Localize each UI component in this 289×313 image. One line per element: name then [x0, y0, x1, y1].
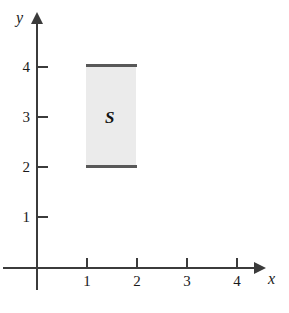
- y-tick-mark: [37, 216, 48, 218]
- x-tick-mark: [86, 258, 88, 269]
- y-tick-label: 2: [16, 160, 30, 175]
- math-figure: x y 1 2 3 4 1 2 3 4 S: [0, 0, 289, 313]
- x-tick-mark: [136, 258, 138, 269]
- y-axis-arrow-icon: [31, 12, 43, 24]
- region-s-top-edge: [86, 64, 137, 67]
- y-tick-mark: [37, 116, 48, 118]
- x-tick-mark: [186, 258, 188, 269]
- y-axis-line: [36, 22, 38, 290]
- x-axis-arrow-icon: [254, 262, 266, 274]
- y-tick-label: 1: [16, 210, 30, 225]
- y-tick-mark: [37, 66, 48, 68]
- x-tick-label: 3: [179, 274, 195, 289]
- x-tick-label: 4: [229, 274, 245, 289]
- y-axis-label: y: [16, 10, 23, 26]
- y-tick-mark: [37, 166, 48, 168]
- x-tick-label: 1: [79, 274, 95, 289]
- region-s-bottom-edge: [86, 165, 137, 168]
- x-axis-line: [3, 267, 258, 269]
- x-tick-label: 2: [129, 274, 145, 289]
- y-tick-label: 3: [16, 110, 30, 125]
- y-tick-label: 4: [16, 60, 30, 75]
- x-axis-label: x: [268, 271, 275, 287]
- region-s-label: S: [105, 109, 114, 126]
- x-tick-mark: [236, 258, 238, 269]
